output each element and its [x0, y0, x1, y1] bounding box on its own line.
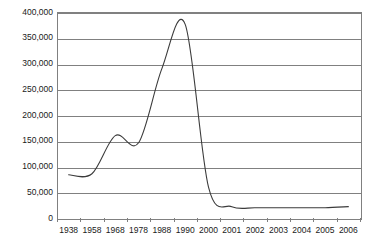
y-axis-tick-label: 200,000 — [0, 111, 53, 120]
x-axis-tick-label: 2001 — [222, 226, 241, 235]
x-axis-tick-label: 1938 — [59, 226, 78, 235]
y-axis-tick-label: 0 — [0, 214, 53, 223]
x-axis-tick-label: 1988 — [152, 226, 171, 235]
x-axis-tick-mark — [57, 218, 58, 222]
plot-area — [57, 12, 362, 220]
gridline — [58, 193, 361, 194]
x-axis-tick-label: 2002 — [246, 226, 265, 235]
x-axis-tick-mark — [174, 218, 175, 222]
x-axis-tick-mark — [337, 218, 338, 222]
x-axis-tick-mark — [220, 218, 221, 222]
x-axis-tick-mark — [104, 218, 105, 222]
gridline — [58, 65, 361, 66]
x-axis-tick-mark — [313, 218, 314, 222]
x-axis-tick-label: 1958 — [82, 226, 101, 235]
x-axis-tick-label: 2003 — [269, 226, 288, 235]
x-axis-tick-mark — [267, 218, 268, 222]
x-axis-tick-mark — [150, 218, 151, 222]
y-axis-tick-label: 150,000 — [0, 136, 53, 145]
gridline — [58, 168, 361, 169]
y-axis-tick-label: 100,000 — [0, 162, 53, 171]
x-axis-tick-label: 2000 — [199, 226, 218, 235]
x-axis-tick-label: 1978 — [129, 226, 148, 235]
y-axis-tick-label: 400,000 — [0, 8, 53, 17]
line-chart: 050,000100,000150,000200,000250,000300,0… — [0, 0, 375, 250]
x-axis-tick-mark — [290, 218, 291, 222]
x-axis-tick-label: 2004 — [292, 226, 311, 235]
gridline — [58, 116, 361, 117]
x-axis-tick-label: 2005 — [316, 226, 335, 235]
gridline — [58, 13, 361, 14]
x-axis-tick-label: 1990 — [176, 226, 195, 235]
y-axis-tick-label: 50,000 — [0, 188, 53, 197]
y-axis-tick-label: 250,000 — [0, 85, 53, 94]
x-axis-tick-mark — [360, 218, 361, 222]
x-axis-tick-mark — [80, 218, 81, 222]
x-axis-tick-mark — [197, 218, 198, 222]
x-axis-tick-mark — [243, 218, 244, 222]
gridline — [58, 90, 361, 91]
gridline — [58, 142, 361, 143]
x-axis-tick-label: 2006 — [339, 226, 358, 235]
y-axis-tick-label: 300,000 — [0, 59, 53, 68]
gridline — [58, 39, 361, 40]
x-axis-tick-mark — [127, 218, 128, 222]
y-axis-tick-label: 350,000 — [0, 33, 53, 42]
x-axis-tick-label: 1968 — [106, 226, 125, 235]
